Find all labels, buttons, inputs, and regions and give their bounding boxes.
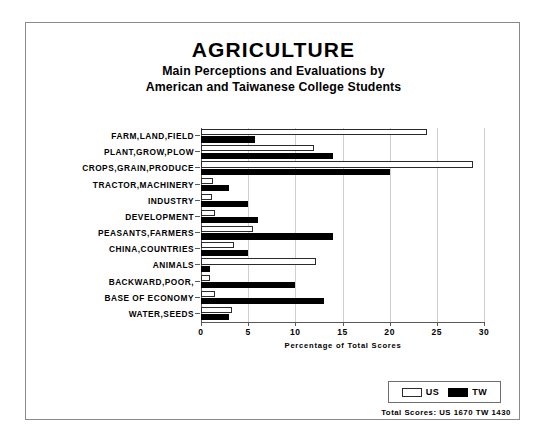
y-axis-tick — [195, 232, 200, 233]
subtitle-line-1: Main Perceptions and Evaluations by — [26, 64, 521, 80]
chart-row: ANIMALS — [201, 257, 484, 273]
x-axis-title: Percentage of Total Scores — [201, 341, 485, 350]
y-axis-tick — [195, 313, 200, 314]
bar-us — [201, 145, 314, 151]
y-axis-tick — [195, 216, 200, 217]
bar-tw — [201, 153, 333, 159]
legend-label-tw: TW — [472, 387, 487, 397]
bar-us — [201, 194, 212, 200]
y-axis-tick — [195, 281, 200, 282]
totals-footnote: Total Scores: US 1670 TW 1430 — [356, 408, 536, 417]
chart-frame: AGRICULTURE Main Perceptions and Evaluat… — [25, 22, 520, 420]
x-axis-tick — [437, 322, 438, 326]
bar-us — [201, 291, 215, 297]
y-axis-tick — [195, 200, 200, 201]
y-axis-tick — [195, 167, 200, 168]
bar-us — [201, 129, 427, 135]
category-label: BASE OF ECONOMY — [104, 290, 194, 306]
title-block: AGRICULTURE Main Perceptions and Evaluat… — [26, 37, 521, 95]
bar-us — [201, 307, 232, 313]
legend-swatch-us-icon — [402, 388, 422, 397]
bar-us — [201, 210, 215, 216]
x-axis-tick — [201, 322, 202, 326]
x-axis-label: 5 — [245, 327, 250, 337]
legend-label-us: US — [426, 387, 440, 397]
category-label: PEASANTS,FARMERS — [98, 225, 194, 241]
bar-tw — [201, 233, 333, 239]
bar-tw — [201, 282, 295, 288]
x-axis-label: 30 — [479, 327, 490, 337]
x-axis-tick — [484, 322, 485, 326]
page-title: AGRICULTURE — [26, 37, 521, 62]
chart-row: CHINA,COUNTRIES — [201, 241, 484, 257]
category-label: FARM,LAND,FIELD — [111, 128, 194, 144]
bar-tw — [201, 217, 258, 223]
legend-item-tw: TW — [448, 387, 487, 397]
x-axis-tick — [390, 322, 391, 326]
x-axis-tick — [248, 322, 249, 326]
bar-tw — [201, 201, 248, 207]
plot-area: FARM,LAND,FIELDPLANT,GROW,PLOWCROPS,GRAI… — [201, 128, 484, 322]
bar-us — [201, 178, 213, 184]
chart-row: BASE OF ECONOMY — [201, 290, 484, 306]
chart-row: CROPS,GRAIN,PRODUCE — [201, 160, 484, 176]
y-axis-tick — [195, 248, 200, 249]
category-label: PLANT,GROW,PLOW — [104, 144, 194, 160]
bar-us — [201, 275, 210, 281]
gridline — [484, 128, 485, 322]
category-label: WATER,SEEDS — [129, 306, 194, 322]
chart-row: BACKWARD,POOR, — [201, 274, 484, 290]
category-label: BACKWARD,POOR, — [109, 274, 194, 290]
chart-row: PLANT,GROW,PLOW — [201, 144, 484, 160]
chart-row: FARM,LAND,FIELD — [201, 128, 484, 144]
x-axis-label: 15 — [337, 327, 348, 337]
category-label: TRACTOR,MACHINERY — [93, 177, 194, 193]
x-axis-label: 25 — [432, 327, 443, 337]
y-axis-tick — [195, 135, 200, 136]
bar-us — [201, 242, 234, 248]
subtitle-line-2: American and Taiwanese College Students — [26, 80, 521, 96]
bar-us — [201, 226, 253, 232]
bar-tw — [201, 136, 255, 142]
chart-row: WATER,SEEDS — [201, 306, 484, 322]
category-label: INDUSTRY — [148, 193, 194, 209]
bar-tw — [201, 298, 324, 304]
y-axis-tick — [195, 151, 200, 152]
y-axis-tick — [195, 264, 200, 265]
legend-swatch-tw-icon — [448, 388, 468, 397]
y-axis-tick — [195, 184, 200, 185]
x-axis-line: 051015202530 — [201, 322, 485, 323]
x-axis-label: 10 — [290, 327, 301, 337]
chart-row: INDUSTRY — [201, 193, 484, 209]
bar-us — [201, 258, 316, 264]
x-axis-tick — [343, 322, 344, 326]
category-label: DEVELOPMENT — [125, 209, 194, 225]
bar-tw — [201, 314, 229, 320]
bar-tw — [201, 250, 248, 256]
chart-row: TRACTOR,MACHINERY — [201, 177, 484, 193]
chart-row: DEVELOPMENT — [201, 209, 484, 225]
legend-item-us: US — [402, 387, 440, 397]
category-label: CROPS,GRAIN,PRODUCE — [82, 160, 194, 176]
bar-tw — [201, 185, 229, 191]
bar-tw — [201, 169, 390, 175]
x-axis-tick — [295, 322, 296, 326]
x-axis-label: 0 — [198, 327, 203, 337]
category-label: ANIMALS — [153, 257, 194, 273]
chart-row: PEASANTS,FARMERS — [201, 225, 484, 241]
y-axis-tick — [195, 297, 200, 298]
legend: US TW — [388, 381, 501, 403]
bar-us — [201, 161, 473, 167]
bar-tw — [201, 266, 210, 272]
x-axis-label: 20 — [384, 327, 395, 337]
category-label: CHINA,COUNTRIES — [109, 241, 194, 257]
